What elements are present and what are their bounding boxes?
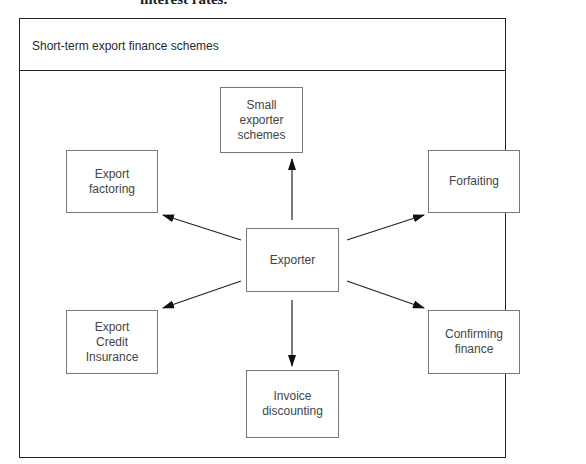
arrow-to-confirming-finance (347, 281, 424, 308)
node-label: Confirming finance (445, 327, 503, 357)
arrow-to-export-credit-insurance (163, 281, 241, 308)
node-label: Export factoring (89, 167, 135, 197)
node-exporter: Exporter (246, 228, 339, 292)
node-invoice-discounting: Invoice discounting (246, 370, 339, 438)
node-label: Forfaiting (449, 174, 499, 189)
arrow-to-forfaiting (347, 215, 424, 240)
node-label: Small exporter schemes (237, 98, 285, 143)
node-label: Exporter (270, 253, 315, 268)
node-small-exporter-schemes: Small exporter schemes (220, 87, 303, 153)
arrow-to-export-factoring (163, 215, 241, 240)
node-label: Invoice discounting (262, 389, 323, 419)
node-export-factoring: Export factoring (66, 150, 158, 213)
node-export-credit-insurance: Export Credit Insurance (66, 310, 158, 374)
node-label: Export Credit Insurance (86, 320, 139, 365)
node-confirming-finance: Confirming finance (428, 310, 520, 374)
node-forfaiting: Forfaiting (428, 150, 520, 213)
